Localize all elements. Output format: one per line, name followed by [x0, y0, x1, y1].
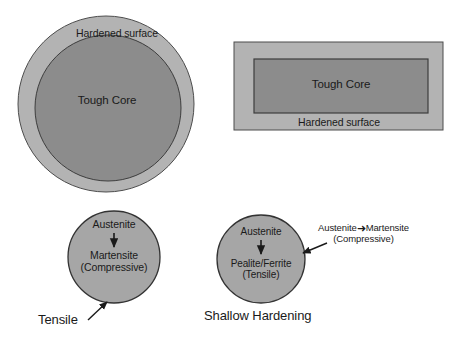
deep-hardening-phase-to-text: Martensite: [81, 250, 148, 262]
annotation-phase-from: Austenite: [318, 222, 357, 233]
shallow-hardening-stress-state-text: (Tensile): [231, 269, 292, 280]
rect-tough-core-label: Tough Core: [312, 78, 370, 91]
annotation-arrow-icon: ➜: [357, 222, 366, 234]
deep-hardening-stress-state-text: (Compressive): [81, 262, 148, 274]
figure-canvas: Hardened surface Tough Core Tough Core H…: [0, 0, 459, 343]
round-hardened-surface-label: Hardened surface: [76, 28, 158, 40]
shallow-hardening-phase-from-label: Austenite: [241, 226, 282, 237]
shallow-hardening-caption: Shallow Hardening: [204, 309, 311, 324]
round-tough-core-shape: [35, 35, 181, 181]
rect-hardened-surface-label: Hardened surface: [298, 117, 380, 129]
figure-graphics: [0, 0, 459, 343]
round-tough-core-label: Tough Core: [78, 94, 136, 107]
deep-hardening-phase-to-label: Martensite (Compressive): [81, 250, 148, 274]
shallow-hardening-annotation-line2: (Compressive): [318, 234, 409, 245]
shallow-hardening-annotation: Austenite➜Martensite (Compressive): [318, 222, 409, 245]
shallow-hardening-phase-to-text: Pealite/Ferrite: [231, 258, 292, 269]
annotation-phase-to: Martensite: [366, 222, 409, 233]
shallow-hardening-phase-to-label: Pealite/Ferrite (Tensile): [231, 258, 292, 280]
tensile-callout-arrow: [88, 302, 107, 320]
deep-hardening-phase-from-label: Austenite: [93, 219, 136, 231]
deep-hardening-caption: Tensile: [38, 313, 78, 328]
